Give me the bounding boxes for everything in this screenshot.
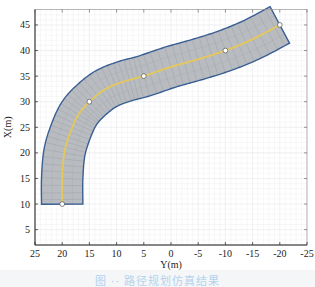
y-tick-label: 20 (20, 147, 30, 158)
waypoint-marker (277, 23, 282, 28)
y-tick-label: 40 (20, 45, 30, 56)
x-tick-label: -25 (300, 248, 313, 259)
y-axis-label: X(m) (2, 116, 14, 138)
waypoint-marker (60, 202, 65, 207)
waypoint-marker (223, 48, 228, 53)
x-tick-label: -20 (273, 248, 286, 259)
x-tick-label: 15 (84, 248, 94, 259)
chart-figure: 2520151050-5-10-15-20-255101520253035404… (0, 0, 315, 270)
x-axis-label: Y(m) (160, 259, 182, 270)
chart-svg: 2520151050-5-10-15-20-255101520253035404… (0, 0, 315, 270)
x-tick-label: 20 (57, 248, 67, 259)
x-tick-label: 10 (112, 248, 122, 259)
waypoint-marker (87, 99, 92, 104)
x-tick-label: 25 (30, 248, 40, 259)
y-tick-label: 35 (20, 71, 30, 82)
x-tick-label: -15 (246, 248, 259, 259)
y-tick-label: 30 (20, 96, 30, 107)
y-tick-label: 25 (20, 122, 30, 133)
x-tick-label: 5 (141, 248, 146, 259)
x-tick-label: -10 (219, 248, 232, 259)
y-tick-label: 15 (20, 173, 30, 184)
waypoint-marker (141, 74, 146, 79)
x-tick-label: 0 (169, 248, 174, 259)
y-tick-label: 10 (20, 199, 30, 210)
figure-caption: 图 ·· 路径规划仿真结果 (0, 272, 315, 287)
y-tick-label: 5 (25, 224, 30, 235)
y-tick-label: 45 (20, 19, 30, 30)
x-tick-label: -5 (194, 248, 202, 259)
